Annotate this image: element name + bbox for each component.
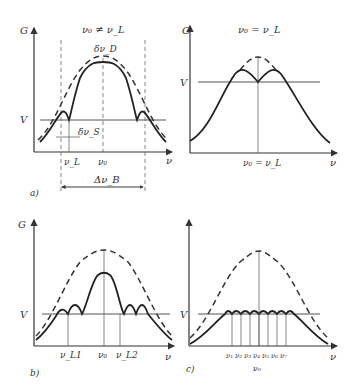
- gain-curve: [190, 70, 330, 143]
- mode-label-5: ν₅: [262, 352, 269, 360]
- nu-0-label: ν₀: [98, 350, 107, 360]
- doppler-width-label: δν_D: [94, 44, 117, 55]
- nu-L-label: ν_L: [64, 157, 80, 168]
- panel-a2: G ν ν₀ = ν_L V ν₀ = ν_L: [180, 24, 337, 169]
- panel-tag: c): [186, 364, 195, 374]
- mode-label-2: ν₂: [235, 352, 242, 360]
- mode-label-3: ν₃: [244, 352, 251, 360]
- nu-L2-label: ν_L2: [116, 350, 138, 361]
- threshold-label: V: [180, 77, 189, 88]
- center-label: ν₀ = ν_L: [243, 158, 281, 169]
- panel-tag: b): [30, 368, 40, 378]
- bandwidth-label: Δν_B: [93, 174, 120, 186]
- nu-L1-label: ν_L1: [60, 350, 82, 361]
- y-axis-label: G: [20, 25, 28, 36]
- x-axis-label: ν: [330, 157, 336, 168]
- threshold-label: V: [180, 309, 189, 320]
- panel-tag: a): [30, 188, 39, 198]
- panel-b: G ν V ν_L1 ν₀ ν_L2 b): [18, 219, 174, 378]
- threshold-label: V: [20, 309, 29, 320]
- panel-c: V ν ν₁ ν₂ ν₃ ν₄ ν₅ ν₆ ν₇ ν₀ c): [180, 220, 337, 374]
- laser-gain-diagram: G ν ν₀ ≠ ν_L δν_D V δν_S ν_L ν₀ Δν_B a) …: [0, 0, 357, 385]
- diagram-root: G ν ν₀ ≠ ν_L δν_D V δν_S ν_L ν₀ Δν_B a) …: [0, 0, 357, 385]
- x-axis-label: ν: [330, 351, 336, 362]
- mode-label-1: ν₁: [226, 352, 233, 360]
- center-label: ν₀: [253, 364, 262, 373]
- mode-label-7: ν₇: [280, 352, 287, 360]
- mode-lines: [232, 314, 286, 346]
- panel-a: G ν ν₀ ≠ ν_L δν_D V δν_S ν_L ν₀ Δν_B a): [20, 24, 172, 198]
- y-axis-label: G: [18, 219, 26, 230]
- x-axis-label: ν: [166, 155, 172, 166]
- mode-label-4: ν₄: [253, 352, 260, 360]
- panel-title: ν₀ = ν_L: [238, 24, 281, 36]
- threshold-label: V: [20, 114, 29, 125]
- nu-0-label: ν₀: [98, 157, 107, 167]
- y-axis-label: G: [182, 25, 190, 36]
- panel-title: ν₀ ≠ ν_L: [82, 24, 125, 36]
- mode-label-6: ν₆: [271, 352, 278, 360]
- x-axis-label: ν: [165, 351, 171, 362]
- hole-width-label: δν_S: [78, 127, 100, 138]
